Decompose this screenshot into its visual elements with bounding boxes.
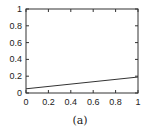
y-tick-label: 0.2 [9, 71, 22, 81]
y-tick-label: 0.4 [9, 54, 22, 64]
plot-border [26, 9, 138, 93]
y-tick-label: 1 [17, 4, 22, 14]
y-axis-tick-labels: 00.20.40.60.81 [9, 4, 22, 98]
data-series [26, 77, 138, 89]
x-tick-label: 0 [23, 97, 28, 107]
line-chart: 00.20.40.60.81 00.20.40.60.81 (a) [0, 0, 145, 132]
y-tick-label: 0.6 [9, 38, 22, 48]
x-tick-label: 0.8 [109, 97, 122, 107]
x-tick-label: 0.6 [87, 97, 100, 107]
series-line [26, 77, 138, 89]
y-tick-label: 0 [17, 88, 22, 98]
y-tick-label: 0.8 [9, 21, 22, 31]
x-tick-label: 0.2 [42, 97, 55, 107]
figure-caption: (a) [72, 114, 87, 127]
x-axis-tick-labels: 00.20.40.60.81 [23, 97, 140, 107]
x-tick-label: 1 [135, 97, 140, 107]
plot-frame [26, 9, 138, 93]
axis-ticks [26, 9, 138, 93]
x-tick-label: 0.4 [65, 97, 78, 107]
